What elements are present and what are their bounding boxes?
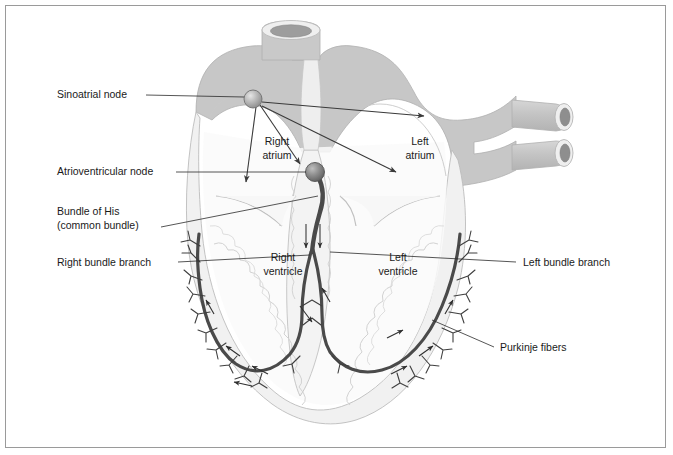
label-left-ventricle-line2: ventricle — [378, 265, 417, 277]
label-purkinje-fibers: Purkinje fibers — [500, 341, 567, 353]
label-right-atrium-line1: Right — [265, 135, 290, 147]
label-right-atrium-line2: atrium — [262, 149, 291, 161]
figure-root: Sinoatrial node Atrioventricular node Bu… — [0, 0, 673, 455]
heart-conduction-diagram: Sinoatrial node Atrioventricular node Bu… — [0, 0, 673, 455]
label-bundle-of-his-line1: Bundle of His — [57, 205, 119, 217]
label-left-ventricle-line1: Left — [389, 251, 407, 263]
superior-pulmonary-vein-lumen — [560, 108, 570, 126]
atrial-septum — [301, 60, 321, 150]
label-left-bundle-branch: Left bundle branch — [523, 256, 610, 268]
label-left-atrium-line2: atrium — [405, 149, 434, 161]
label-right-ventricle-line2: ventricle — [263, 265, 302, 277]
atrioventricular-node-marker — [306, 163, 325, 182]
label-sinoatrial-node: Sinoatrial node — [57, 88, 127, 100]
label-left-atrium-line1: Left — [411, 135, 429, 147]
aorta-lumen — [271, 25, 312, 37]
label-bundle-of-his-line2: (common bundle) — [57, 219, 139, 231]
inferior-pulmonary-vein-lumen — [560, 144, 570, 162]
label-atrioventricular-node: Atrioventricular node — [57, 165, 153, 177]
label-right-bundle-branch: Right bundle branch — [57, 256, 151, 268]
sinoatrial-node-marker — [244, 90, 262, 108]
label-right-ventricle-line1: Right — [271, 251, 296, 263]
